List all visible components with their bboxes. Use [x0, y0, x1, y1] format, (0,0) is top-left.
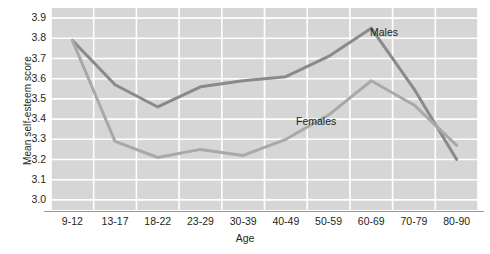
y-tick-label: 3.6 — [31, 73, 46, 84]
x-tick-label: 30-39 — [230, 215, 257, 228]
y-tick-label: 3.2 — [31, 154, 46, 165]
y-tick-label: 3.3 — [31, 133, 46, 144]
y-tick-label: 3.9 — [31, 12, 46, 23]
y-tick-label: 3.7 — [31, 53, 46, 64]
x-tick-label: 9-12 — [62, 215, 83, 228]
y-tick-label: 3.0 — [31, 194, 46, 205]
y-tick-label: 3.4 — [31, 113, 46, 124]
x-tick-label: 40-49 — [272, 215, 299, 228]
x-tick-label: 13-17 — [102, 215, 129, 228]
x-tick-label: 80-90 — [443, 215, 470, 228]
x-axis-line — [44, 211, 484, 212]
y-tick-label: 3.1 — [31, 174, 46, 185]
x-tick-label: 70-79 — [401, 215, 428, 228]
plot-area — [51, 8, 478, 210]
x-tick-label: 50-59 — [315, 215, 342, 228]
series-label-females: Females — [296, 115, 336, 127]
y-tick-label: 3.8 — [31, 32, 46, 43]
x-tick-label: 18-22 — [144, 215, 171, 228]
plot-canvas — [51, 8, 478, 210]
x-axis-tick-labels: 9-1213-1718-2223-2930-3940-4950-5960-697… — [0, 215, 490, 231]
series-label-males: Males — [370, 26, 398, 38]
y-axis-tick-labels: 3.03.13.23.33.43.53.63.73.83.9 — [18, 0, 46, 215]
x-tick-label: 23-29 — [187, 215, 214, 228]
self-esteem-by-age-line-chart: Mean self-esteem score 3.03.13.23.33.43.… — [0, 0, 490, 254]
x-axis-title: Age — [0, 232, 490, 244]
y-tick-label: 3.5 — [31, 93, 46, 104]
x-tick-label: 60-69 — [358, 215, 385, 228]
